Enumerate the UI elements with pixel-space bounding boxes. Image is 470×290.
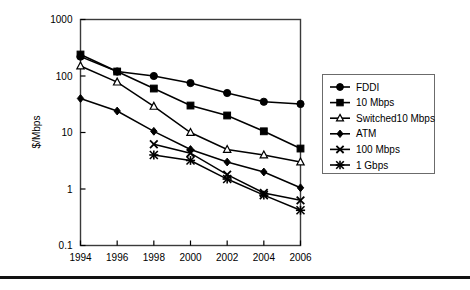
marker-filled-circle (260, 98, 267, 105)
chart-figure: 10001001010.1 19941996199820002002200420… (0, 0, 470, 290)
marker-filled-square (114, 68, 121, 75)
marker-filled-square (260, 128, 267, 135)
data-series-layer (77, 51, 305, 215)
marker-filled-square (150, 85, 157, 92)
marker-hollow-triangle (187, 129, 194, 136)
x-axis-tick-label: 1996 (106, 252, 129, 263)
marker-filled-square (337, 99, 343, 105)
marker-filled-diamond (114, 107, 120, 115)
line-chart: 10001001010.1 19941996199820002002200420… (0, 0, 470, 290)
marker-asterisk (186, 156, 195, 165)
series-line (81, 98, 301, 187)
marker-filled-diamond (297, 184, 303, 192)
y-axis-tick-label: 100 (56, 71, 73, 82)
marker-asterisk (149, 151, 158, 160)
marker-filled-circle (337, 84, 344, 91)
marker-hollow-triangle (150, 102, 157, 109)
legend-item-label: Switched10 Mbps (356, 113, 435, 124)
marker-filled-diamond (151, 127, 157, 135)
marker-filled-circle (150, 72, 157, 79)
x-axis-tick-label: 2002 (216, 252, 239, 263)
marker-filled-circle (297, 100, 304, 107)
marker-filled-square (297, 145, 304, 152)
bottom-divider-rule (0, 276, 470, 279)
legend-item-label: ATM (356, 128, 376, 139)
marker-filled-diamond (77, 95, 83, 103)
marker-asterisk (296, 206, 305, 215)
x-axis-tick-label: 1994 (69, 252, 92, 263)
y-axis-tick-label: 1000 (50, 14, 73, 25)
legend-item-label: 100 Mbps (356, 144, 400, 155)
marker-filled-circle (187, 79, 194, 86)
x-axis: 1994199619982000200220042006 (69, 241, 312, 263)
legend-item-label: 10 Mbps (356, 97, 394, 108)
marker-filled-circle (224, 89, 231, 96)
y-axis-title: $/Mbps (31, 116, 42, 149)
marker-hollow-triangle (77, 62, 84, 69)
y-axis-tick-label: 1 (67, 184, 73, 195)
legend-item-label: FDDI (356, 82, 379, 93)
marker-asterisk (223, 175, 232, 184)
x-axis-tick-label: 1998 (143, 252, 166, 263)
marker-filled-diamond (261, 168, 267, 176)
marker-filled-square (77, 51, 84, 58)
marker-filled-square (224, 112, 231, 119)
marker-asterisk (336, 161, 345, 169)
x-axis-tick-label: 2000 (179, 252, 202, 263)
marker-filled-diamond (224, 158, 230, 166)
x-axis-tick-label: 2006 (289, 252, 312, 263)
legend-item-label: 1 Gbps (356, 160, 388, 171)
y-axis-tick-label: 0.1 (59, 240, 73, 251)
y-axis-tick-label: 10 (61, 127, 73, 138)
marker-filled-square (187, 102, 194, 109)
x-axis-tick-label: 2004 (253, 252, 276, 263)
marker-asterisk (259, 191, 268, 200)
series-0 (77, 53, 304, 108)
chart-legend: FDDI10 MbpsSwitched10 MbpsATM100 Mbps1 G… (323, 75, 435, 174)
